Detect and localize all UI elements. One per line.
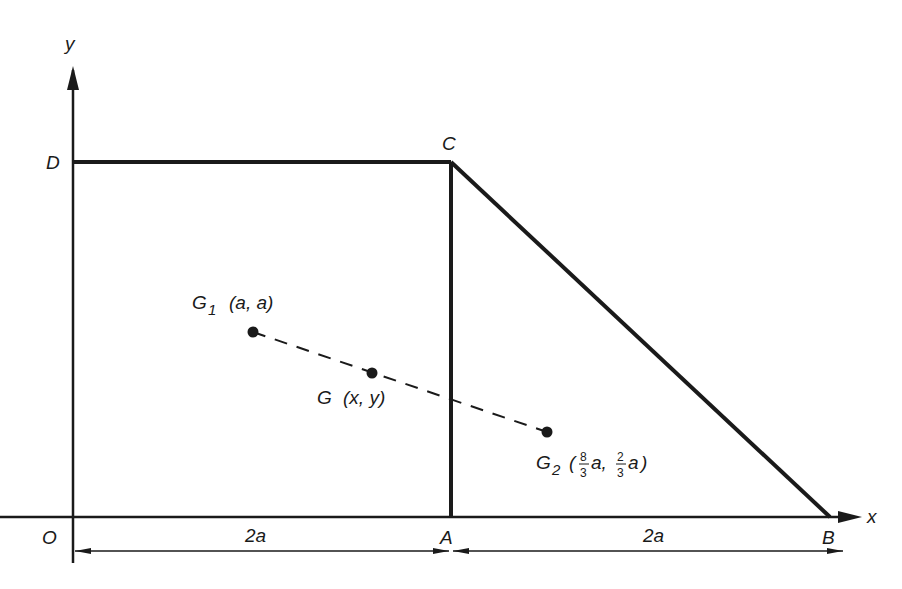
svg-text:G: G [317, 387, 332, 408]
composite-lamina-diagram: y x O D C A B 2a 2a G 1 (a, a) G (x, y) … [0, 0, 902, 589]
svg-text:(a, a): (a, a) [229, 292, 273, 313]
g2-label: G 2 ( 8 3 a, 2 3 a ) [536, 450, 647, 480]
g1-label: G 1 (a, a) [192, 292, 273, 318]
g-label: G (x, y) [317, 387, 385, 408]
svg-text:2: 2 [617, 450, 624, 464]
x-axis [0, 511, 862, 523]
svg-text:G: G [192, 292, 207, 313]
svg-text:3: 3 [617, 466, 624, 480]
g2-point-icon [542, 427, 553, 438]
y-axis [67, 66, 79, 563]
vertex-C-label: C [442, 133, 456, 154]
vertex-B-label: B [822, 527, 835, 548]
centroid-connector-dashed-line [253, 332, 547, 432]
svg-text:a: a [628, 452, 639, 473]
svg-text:1: 1 [208, 301, 216, 318]
dimension-OA-label: 2a [244, 525, 266, 546]
svg-text:3: 3 [580, 466, 587, 480]
x-axis-label: x [866, 506, 878, 527]
svg-text:): ) [639, 452, 647, 473]
vertex-D-label: D [46, 152, 60, 173]
g-point-icon [367, 368, 378, 379]
y-axis-label: y [63, 33, 76, 54]
svg-text:(x, y): (x, y) [343, 387, 385, 408]
origin-label: O [42, 527, 57, 548]
g1-point-icon [248, 327, 259, 338]
dimension-AB-label: 2a [642, 525, 664, 546]
svg-text:2: 2 [551, 461, 561, 478]
svg-text:8: 8 [580, 450, 587, 464]
x-axis-arrow-icon [838, 511, 862, 523]
svg-text:G: G [536, 452, 551, 473]
svg-text:(: ( [569, 452, 577, 473]
vertex-A-label: A [439, 527, 453, 548]
lamina-outline [73, 162, 830, 517]
y-axis-arrow-icon [67, 66, 79, 90]
svg-text:a,: a, [591, 452, 607, 473]
